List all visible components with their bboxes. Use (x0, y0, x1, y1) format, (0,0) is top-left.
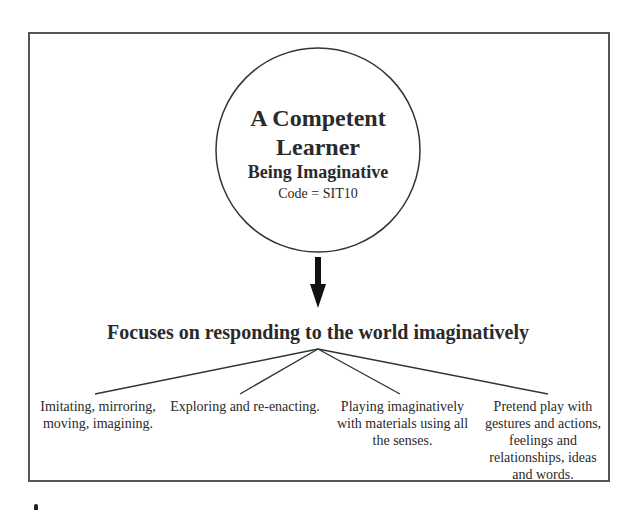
down-arrow-icon (310, 257, 326, 308)
branch-leaf-1: Imitating, mirroring, moving, imagining. (38, 398, 158, 432)
branch-leaf-2: Exploring and re-enacting. (170, 398, 320, 415)
node-title-line1: A Competent (218, 104, 418, 132)
branch-leaf-4: Pretend play with gestures and actions, … (478, 398, 608, 483)
node-subtitle: Being Imaginative (218, 161, 418, 183)
corner-mark (34, 504, 38, 510)
branch-leaf-3: Playing imaginatively with materials usi… (335, 398, 470, 449)
focus-heading: Focuses on responding to the world imagi… (60, 320, 576, 344)
node-code: Code = SIT10 (218, 185, 418, 203)
branch-lines (95, 349, 548, 394)
node-title-line2: Learner (218, 133, 418, 161)
